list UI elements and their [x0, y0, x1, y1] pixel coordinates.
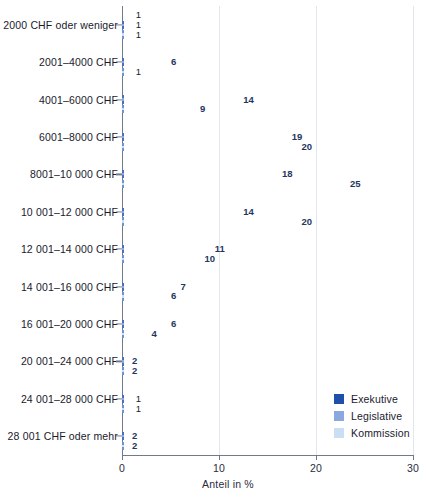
bar-fill	[122, 320, 124, 328]
bar-fill	[122, 21, 124, 29]
bar-chart: 0102030 2000 CHF oder weniger1112001–400…	[0, 0, 426, 497]
bar: 20	[122, 198, 316, 206]
bar: 3	[122, 422, 151, 430]
bar: 10	[122, 235, 219, 243]
bar: 1	[122, 395, 132, 403]
bar: 1	[122, 30, 132, 38]
bar-fill	[122, 357, 124, 365]
bar-value-label: 6	[171, 57, 176, 67]
category-label: 10 001–12 000 CHF	[21, 206, 118, 218]
bar: 2	[122, 367, 141, 375]
bar: 2	[122, 348, 141, 356]
bar: 20	[122, 217, 316, 225]
category-label: 4001–6000 CHF	[39, 94, 118, 106]
bar-value-label: 7	[181, 282, 186, 292]
bar-fill	[122, 68, 124, 76]
category-label: 2001–4000 CHF	[39, 56, 118, 68]
legend-label: Exekutive	[351, 393, 398, 405]
category-group: 2000 CHF oder weniger111	[0, 6, 426, 43]
x-axis-tick	[316, 455, 317, 460]
bar-value-label: 14	[243, 122, 254, 132]
x-axis-tick-label: 0	[119, 462, 125, 474]
bar-value-label: 23	[331, 160, 342, 170]
bar: 23	[122, 160, 345, 168]
category-group: 6001–8000 CHF141920	[0, 118, 426, 155]
x-axis-tick	[122, 455, 123, 460]
bar: 20	[122, 143, 316, 151]
legend-label: Kommission	[351, 427, 410, 439]
bar: 7	[122, 310, 190, 318]
bar-value-label: 2	[132, 48, 137, 58]
category-group: 4001–6000 CHF10149	[0, 81, 426, 118]
x-axis-tick-label: 30	[407, 462, 419, 474]
bar: 6	[122, 292, 180, 300]
category-label: 8001–10 000 CHF	[30, 168, 118, 180]
legend-item[interactable]: Exekutive	[334, 391, 410, 406]
bar-fill	[122, 180, 124, 188]
legend: ExekutiveLegislativeKommission	[334, 391, 410, 442]
x-axis-title: Anteil in %	[0, 478, 426, 490]
bar: 2	[122, 385, 141, 393]
category-label: 24 001–28 000 CHF	[21, 393, 118, 405]
bar-value-label: 14	[243, 95, 254, 105]
bar: 1	[122, 68, 132, 76]
bar: 1	[122, 11, 132, 19]
bar-fill	[122, 105, 124, 113]
bar-fill	[122, 442, 124, 450]
category-group: 16 001–20 000 CHF764	[0, 305, 426, 342]
bar-fill	[122, 58, 124, 66]
bar: 7	[122, 283, 190, 291]
bar: 8	[122, 273, 200, 281]
category-group: 10 001–12 000 CHF201420	[0, 193, 426, 230]
legend-item[interactable]: Legislative	[334, 408, 410, 423]
bar-value-label: 2	[132, 367, 137, 377]
bar: 4	[122, 330, 161, 338]
x-axis-line	[122, 455, 414, 456]
bar-value-label: 3	[142, 422, 147, 432]
bar-fill	[122, 143, 124, 151]
bar: 14	[122, 95, 258, 103]
bar: 6	[122, 58, 180, 66]
category-group: 20 001–24 000 CHF222	[0, 343, 426, 380]
bar-fill	[122, 330, 124, 338]
bar-fill	[122, 405, 124, 413]
legend-label: Legislative	[351, 410, 402, 422]
bar: 11	[122, 245, 229, 253]
bar-fill	[122, 395, 124, 403]
bar-value-label: 25	[350, 179, 361, 189]
bar: 9	[122, 105, 209, 113]
x-axis-tick	[219, 455, 220, 460]
bar-value-label: 8	[190, 272, 195, 282]
bar-value-label: 10	[204, 254, 215, 264]
bar-value-label: 4	[152, 329, 157, 339]
bar-value-label: 6	[171, 319, 176, 329]
bar-fill	[122, 283, 124, 291]
category-group: 8001–10 000 CHF231825	[0, 156, 426, 193]
category-label: 6001–8000 CHF	[39, 131, 118, 143]
category-label: 16 001–20 000 CHF	[21, 318, 118, 330]
bar-value-label: 7	[181, 309, 186, 319]
x-axis-tick-label: 20	[310, 462, 322, 474]
bar-value-label: 1	[136, 67, 141, 77]
bar: 1	[122, 21, 132, 29]
bar: 19	[122, 133, 306, 141]
bar-fill	[122, 432, 124, 440]
category-label: 14 001–16 000 CHF	[21, 281, 118, 293]
category-label: 2000 CHF oder weniger	[3, 19, 118, 31]
bar-fill	[122, 255, 124, 263]
bar-fill	[122, 245, 124, 253]
bar: 14	[122, 123, 258, 131]
bar: 2	[122, 48, 141, 56]
bar-fill	[122, 217, 124, 225]
category-group: 12 001–14 000 CHF101110	[0, 231, 426, 268]
legend-item[interactable]: Kommission	[334, 425, 410, 440]
bar-fill	[122, 95, 124, 103]
bar: 18	[122, 170, 297, 178]
x-axis-tick-label: 10	[213, 462, 225, 474]
bar-fill	[122, 30, 124, 38]
bar: 2	[122, 442, 141, 450]
category-group: 2001–4000 CHF261	[0, 43, 426, 80]
bar-value-label: 6	[171, 292, 176, 302]
bar: 1	[122, 405, 132, 413]
category-label: 12 001–14 000 CHF	[21, 243, 118, 255]
